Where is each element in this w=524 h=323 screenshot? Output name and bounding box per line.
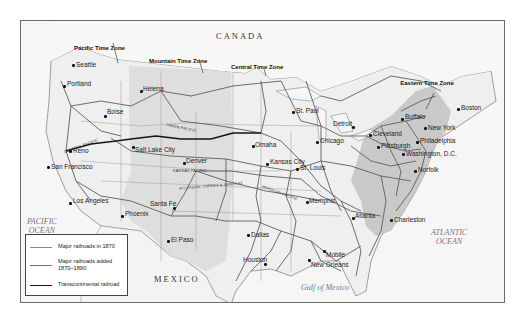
city-dot-kansas-city [266,163,269,166]
city-dot-buffalo [401,118,404,121]
city-dot-chicago [316,141,319,144]
country-label-mexico: MEXICO [154,274,200,284]
city-label-detroit: Detroit [333,121,352,128]
city-label-cleveland: Cleveland [373,131,402,138]
city-dot-el-paso [167,240,170,243]
city-dot-los-angeles [69,202,72,205]
legend-swatch-1870-1890 [30,265,52,266]
city-label-dallas: Dallas [251,232,269,239]
city-dot-norfolk [414,170,417,173]
city-label-denver: Denver [186,158,207,165]
city-dot-seattle [72,64,75,67]
time-zone-label-eastern: Eastern Time Zone [397,80,457,87]
city-label-pittsburgh: Pittsburgh [381,143,410,150]
city-label-buffalo: Buffalo [405,114,425,121]
city-label-st-paul: St. Paul [296,108,319,115]
city-label-houston: Houston [243,257,267,264]
city-label-charleston: Charleston [394,217,425,224]
city-label-chicago: Chicago [320,138,344,145]
city-label-st-louis: St. Louis [300,165,325,172]
city-dot-detroit [352,126,355,129]
city-label-memphis: Memphis [309,198,335,205]
city-label-norfolk: Norfolk [418,167,439,174]
city-label-mobile: Mobile [326,252,345,259]
city-label-phoenix: Phoenix [125,211,149,218]
city-label-boise: Boise [107,109,123,116]
city-label-new-orleans: New Orleans [311,262,349,269]
city-dot-st-louis [296,168,299,171]
time-zone-label-pacific: Pacific Time Zone [74,45,125,52]
time-zone-label-central: Central Time Zone [231,64,283,71]
city-dot-cleveland [369,134,372,137]
legend-item-1870-1890: Major railroads added 1870–1890 [30,258,124,272]
city-label-new-york: New York [428,125,455,132]
legend-label-transcontinental: Transcontinental railroad [58,281,124,288]
city-dot-charleston [390,219,393,222]
country-label-canada: CANADA [216,31,264,41]
city-label-omaha: Omaha [255,142,276,149]
ocean-label-pacific: PACIFIC OCEAN [27,217,57,235]
city-label-san-francisco: San Francisco [51,164,93,171]
legend-item-transcontinental: Transcontinental railroad [30,281,124,288]
legend-label-1870-1890: Major railroads added 1870–1890 [58,258,124,272]
ocean-label-atlantic: ATLANTIC OCEAN [431,228,467,246]
legend-swatch-1870 [30,247,52,248]
legend-label-1870: Major railroads in 1870 [58,243,124,250]
water-label-gulf-of-mexico: Gulf of Mexico [301,283,349,292]
city-label-el-paso: El Paso [171,237,193,244]
railroad-label-kansas-pacific: KANSAS PACIFIC [173,169,207,173]
city-label-reno: Reno [73,148,89,155]
city-label-helena: Helena [143,86,164,93]
city-label-portland: Portland [67,81,91,88]
city-dot-dallas [247,234,250,237]
city-dot-reno [69,150,72,153]
city-dot-pittsburgh [377,146,380,149]
city-dot-st-paul [292,111,295,114]
time-zone-label-mountain: Mountain Time Zone [149,58,207,65]
city-dot-boston [457,108,460,111]
city-label-seattle: Seattle [76,62,96,69]
city-label-santa-fe: Santa Fe [150,201,176,208]
city-label-washington-dc: Washington, D.C. [406,151,457,158]
city-dot-washington-dc [402,153,405,156]
city-dot-new-york [424,127,427,130]
city-label-philadelphia: Philadelphia [420,138,455,145]
legend-item-1870: Major railroads in 1870 [30,243,124,250]
map-legend: Major railroads in 1870 Major railroads … [25,234,128,296]
city-dot-phoenix [121,215,124,218]
city-label-salt-lake-city: Salt Lake City [135,147,175,154]
city-label-boston: Boston [461,105,481,112]
city-dot-philadelphia [416,141,419,144]
city-label-los-angeles: Los Angeles [73,198,108,205]
city-dot-san-francisco [47,166,50,169]
legend-swatch-transcontinental [30,285,52,286]
city-dot-portland [63,85,66,88]
city-label-atlanta: Atlanta [355,213,375,220]
